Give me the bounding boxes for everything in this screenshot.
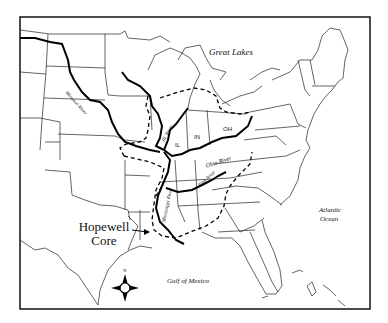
compass-rose-icon (111, 274, 139, 302)
map-canvas (0, 0, 388, 323)
compass-north-label: N (123, 268, 127, 273)
state-label-oh: OH (223, 126, 232, 132)
hopewell-core-line2: Core (68, 234, 140, 248)
state-label-il: IL (175, 142, 180, 148)
atlantic-label: Atlantic (319, 207, 341, 214)
great-lakes-label: Great Lakes (209, 48, 253, 57)
ocean-label: Ocean (320, 216, 338, 223)
upper-mississippi-line (122, 72, 164, 150)
hopewell-core-line1: Hopewell (68, 220, 140, 234)
state-label-in: IN (194, 134, 200, 140)
hopewell-core-label: Hopewell Core (68, 220, 140, 248)
gulf-of-mexico-label: Gulf of Mexico (167, 278, 209, 285)
